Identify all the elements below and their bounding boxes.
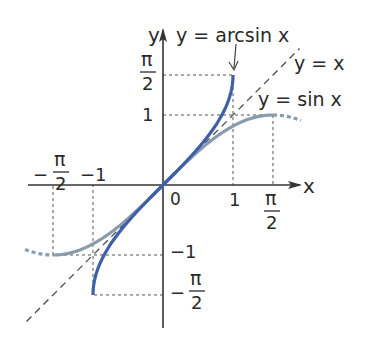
y-axis-label: y bbox=[148, 23, 160, 47]
x-tick-neg-1: −1 bbox=[80, 164, 107, 185]
svg-text:π: π bbox=[190, 267, 201, 289]
svg-text:−: − bbox=[170, 282, 185, 303]
x-tick-neg-pi-over-2: − π 2 bbox=[33, 148, 69, 194]
sin-curve-extension-left bbox=[25, 249, 53, 255]
x-tick-1: 1 bbox=[229, 189, 240, 210]
svg-text:π: π bbox=[141, 48, 152, 70]
y-tick-1: 1 bbox=[142, 104, 153, 125]
y-tick-neg-pi-over-2: − π 2 bbox=[170, 267, 205, 313]
pointer-arrow-icon bbox=[229, 44, 238, 70]
x-tick-pi-over-2: π 2 bbox=[264, 187, 280, 233]
inverse-sine-graph: y x 0 y = arcsin x y = x y = sin x π 2 1… bbox=[0, 0, 367, 339]
svg-text:2: 2 bbox=[191, 292, 202, 313]
sin-label: y = sin x bbox=[258, 88, 342, 110]
svg-text:π: π bbox=[265, 187, 276, 209]
identity-label: y = x bbox=[294, 52, 345, 74]
svg-text:π: π bbox=[54, 148, 65, 170]
svg-text:−: − bbox=[33, 164, 48, 185]
y-tick-neg-1: −1 bbox=[170, 241, 197, 262]
svg-text:2: 2 bbox=[142, 73, 153, 94]
y-tick-pi-over-2: π 2 bbox=[140, 48, 156, 94]
x-axis-label: x bbox=[303, 174, 315, 198]
svg-text:2: 2 bbox=[55, 173, 66, 194]
origin-label: 0 bbox=[170, 189, 181, 209]
svg-text:2: 2 bbox=[266, 212, 277, 233]
sin-curve-extension-right bbox=[273, 115, 301, 121]
arcsin-label: y = arcsin x bbox=[176, 24, 289, 46]
